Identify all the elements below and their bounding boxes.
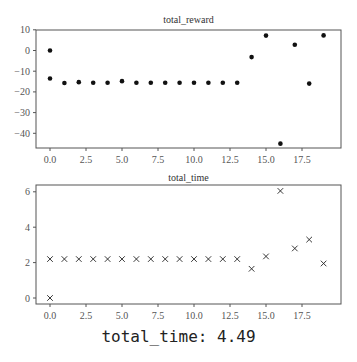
data-point [191, 256, 197, 262]
data-point [62, 256, 68, 262]
data-point [221, 80, 226, 85]
x-tick-label: 15.0 [257, 310, 275, 321]
y-tick-label: 2 [25, 257, 30, 268]
data-point [105, 256, 111, 262]
plot-frame [36, 30, 341, 148]
chart-total-time: total_time0.02.55.07.510.012.515.017.564… [25, 172, 341, 321]
chart-title: total_reward [163, 14, 214, 25]
data-point [90, 256, 96, 262]
data-point [77, 80, 82, 85]
data-point [134, 80, 139, 85]
data-point [249, 55, 254, 60]
data-point [177, 80, 182, 85]
data-point [234, 256, 240, 262]
y-tick-label: 6 [25, 186, 30, 197]
data-point [48, 76, 53, 81]
x-tick-label: 17.5 [293, 310, 311, 321]
data-point [278, 188, 284, 194]
data-point [264, 33, 269, 38]
data-point [148, 256, 154, 262]
y-tick-label: −20 [14, 86, 30, 97]
data-point [249, 266, 255, 272]
charts-canvas: total_reward0.02.55.07.510.012.515.017.5… [0, 0, 357, 325]
data-point [149, 80, 154, 85]
data-point [235, 80, 240, 85]
data-point [206, 80, 211, 85]
data-point [278, 141, 283, 146]
data-point [76, 256, 82, 262]
data-point [263, 254, 269, 260]
x-tick-label: 7.5 [152, 310, 165, 321]
data-point [47, 295, 53, 301]
data-point [120, 79, 125, 84]
data-point [162, 256, 168, 262]
y-tick-label: 10 [20, 24, 30, 35]
data-point [220, 256, 226, 262]
total-time-caption: total_time: 4.49 [0, 327, 357, 346]
x-tick-label: 15.0 [257, 154, 275, 165]
x-tick-label: 5.0 [116, 154, 129, 165]
data-point [206, 256, 212, 262]
x-tick-label: 10.0 [185, 310, 203, 321]
x-tick-label: 5.0 [116, 310, 129, 321]
x-tick-label: 17.5 [293, 154, 311, 165]
data-point [47, 256, 53, 262]
data-point [119, 256, 125, 262]
data-point [192, 80, 197, 85]
data-point [134, 256, 140, 262]
data-point [62, 81, 67, 86]
data-point [163, 80, 168, 85]
y-tick-label: 4 [25, 222, 30, 233]
y-tick-label: −30 [14, 107, 30, 118]
x-tick-label: 0.0 [44, 310, 57, 321]
y-tick-label: −10 [14, 66, 30, 77]
y-tick-label: 0 [25, 293, 30, 304]
y-tick-label: 0 [25, 45, 30, 56]
x-tick-label: 2.5 [80, 310, 93, 321]
x-tick-label: 10.0 [185, 154, 203, 165]
chart-title: total_time [168, 172, 209, 183]
x-tick-label: 12.5 [221, 310, 239, 321]
data-point [306, 237, 312, 243]
data-point [91, 80, 96, 85]
x-tick-label: 0.0 [44, 154, 57, 165]
x-tick-label: 2.5 [80, 154, 93, 165]
y-tick-label: −40 [14, 128, 30, 139]
data-point [292, 246, 298, 252]
plot-frame [36, 185, 341, 304]
chart-total-reward: total_reward0.02.55.07.510.012.515.017.5… [14, 14, 341, 165]
x-tick-label: 12.5 [221, 154, 239, 165]
data-point [321, 261, 327, 267]
data-point [177, 256, 183, 262]
data-point [105, 80, 110, 85]
data-point [321, 33, 326, 38]
x-tick-label: 7.5 [152, 154, 165, 165]
data-point [48, 48, 53, 53]
data-point [307, 81, 312, 86]
data-point [293, 42, 298, 47]
